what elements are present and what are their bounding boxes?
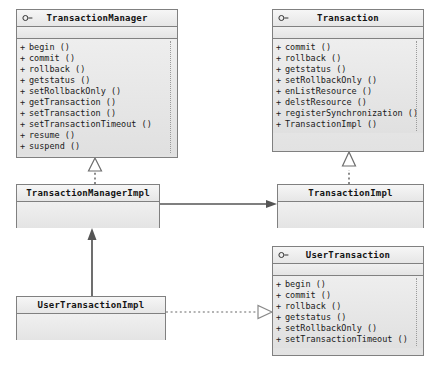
operation-label: delstResource () — [285, 97, 367, 108]
uml-diagram-canvas: TransactionImpl (solid association) --> … — [0, 0, 429, 369]
operation-row[interactable]: + resume () — [20, 130, 175, 141]
visibility-marker: + — [276, 312, 285, 323]
visibility-marker: + — [20, 75, 29, 86]
class-attributes-compartment — [278, 202, 423, 228]
operation-row[interactable]: + commit () — [20, 53, 175, 64]
operation-row[interactable]: + rollback () — [276, 301, 421, 312]
compartment-guide-rail — [416, 278, 418, 346]
visibility-marker: + — [20, 64, 29, 75]
operation-row[interactable]: + TransactionImpl () — [276, 119, 421, 130]
visibility-marker: + — [20, 108, 29, 119]
operation-label: enListResource () — [285, 86, 372, 97]
class-name: UserTransaction — [306, 250, 390, 260]
class-attributes-compartment — [17, 314, 165, 340]
operation-row[interactable]: + setRollbackOnly () — [276, 323, 421, 334]
operation-label: commit () — [29, 53, 75, 64]
class-box-user-transaction-impl[interactable]: UserTransactionImpl — [16, 296, 166, 340]
visibility-marker: + — [20, 119, 29, 130]
class-operations-compartment: + begin () + commit () + rollback () + g… — [17, 39, 177, 155]
relation-tmi-realizes-tm — [89, 158, 102, 184]
relation-uti-realizes-ut — [166, 306, 272, 319]
class-box-transaction[interactable]: Transaction + commit () + rollback () + … — [272, 9, 424, 152]
operation-label: commit () — [285, 42, 331, 53]
operation-label: registerSynchronization () — [285, 108, 418, 119]
operation-row[interactable]: + getstatus () — [276, 64, 421, 75]
operation-row[interactable]: + setRollbackOnly () — [20, 86, 175, 97]
operation-label: rollback () — [285, 53, 341, 64]
visibility-marker: + — [276, 75, 285, 86]
operation-label: TransactionImpl () — [285, 119, 377, 130]
operation-label: setRollbackOnly () — [285, 323, 377, 334]
class-attributes-compartment — [273, 27, 423, 39]
operation-label: setTransactionTimeout () — [29, 119, 152, 130]
operation-label: begin () — [285, 279, 326, 290]
operation-row[interactable]: + commit () — [276, 42, 421, 53]
operation-row[interactable]: + setRollbackOnly () — [276, 75, 421, 86]
visibility-marker: + — [276, 301, 285, 312]
operation-label: setRollbackOnly () — [29, 86, 121, 97]
operation-row[interactable]: + getstatus () — [276, 312, 421, 323]
visibility-marker: + — [20, 141, 29, 152]
class-box-user-transaction[interactable]: UserTransaction + begin () + commit () +… — [272, 246, 424, 356]
operation-label: getstatus () — [29, 75, 90, 86]
relation-uti-assoc-tmi — [88, 228, 97, 296]
visibility-marker: + — [276, 290, 285, 301]
operation-label: begin () — [29, 42, 70, 53]
operation-label: getstatus () — [285, 64, 346, 75]
visibility-marker: + — [276, 53, 285, 64]
operation-label: suspend () — [29, 141, 80, 152]
operation-row[interactable]: + commit () — [276, 290, 421, 301]
class-title-bar: Transaction — [273, 10, 423, 27]
operation-row[interactable]: + suspend () — [20, 141, 175, 152]
class-name: Transaction — [317, 13, 379, 23]
operation-row[interactable]: + rollback () — [20, 64, 175, 75]
visibility-marker: + — [20, 86, 29, 97]
hollow-triangle-arrowhead — [258, 306, 272, 319]
visibility-marker: + — [20, 97, 29, 108]
interface-lollipop-icon — [278, 15, 289, 22]
filled-arrowhead — [88, 228, 97, 240]
visibility-marker: + — [276, 119, 285, 130]
class-attributes-compartment — [17, 27, 177, 39]
visibility-marker: + — [20, 130, 29, 141]
operation-label: setTransactionTimeout () — [285, 334, 408, 345]
visibility-marker: + — [276, 334, 285, 345]
class-operations-compartment: + begin () + commit () + rollback () + g… — [273, 276, 423, 348]
operation-row[interactable]: + enListResource () — [276, 86, 421, 97]
class-name: TransactionManagerImpl — [26, 188, 150, 198]
visibility-marker: + — [276, 279, 285, 290]
operation-row[interactable]: + setTransactionTimeout () — [20, 119, 175, 130]
operation-row[interactable]: + getstatus () — [20, 75, 175, 86]
operation-row[interactable]: + rollback () — [276, 53, 421, 64]
class-box-transaction-manager-impl[interactable]: TransactionManagerImpl — [16, 184, 160, 228]
class-operations-compartment: + commit () + rollback () + getstatus ()… — [273, 39, 423, 133]
relation-tmi-assoc-ti — [160, 200, 277, 208]
class-attributes-compartment — [17, 202, 159, 228]
interface-lollipop-icon — [22, 15, 33, 22]
class-title-bar: TransactionManager — [17, 10, 177, 27]
operation-row[interactable]: + setTransaction () — [20, 108, 175, 119]
visibility-marker: + — [276, 323, 285, 334]
operation-label: resume () — [29, 130, 75, 141]
operation-row[interactable]: + registerSynchronization () — [276, 108, 421, 119]
operation-label: rollback () — [285, 301, 341, 312]
operation-row[interactable]: + begin () — [276, 279, 421, 290]
visibility-marker: + — [276, 108, 285, 119]
operation-label: setRollbackOnly () — [285, 75, 377, 86]
compartment-guide-rail — [170, 41, 172, 153]
visibility-marker: + — [20, 53, 29, 64]
operation-label: commit () — [285, 290, 331, 301]
operation-row[interactable]: + delstResource () — [276, 97, 421, 108]
class-box-transaction-manager[interactable]: TransactionManager + begin () + commit (… — [16, 9, 178, 158]
operation-row[interactable]: + setTransactionTimeout () — [276, 334, 421, 345]
class-box-transaction-impl[interactable]: TransactionImpl — [277, 184, 424, 228]
class-title-bar: UserTransactionImpl — [17, 297, 165, 314]
class-name: UserTransactionImpl — [38, 300, 145, 310]
hollow-triangle-arrowhead — [343, 152, 356, 166]
operation-row[interactable]: + begin () — [20, 42, 175, 53]
operation-label: rollback () — [29, 64, 85, 75]
class-title-bar: UserTransaction — [273, 247, 423, 264]
visibility-marker: + — [276, 86, 285, 97]
filled-arrowhead — [266, 200, 277, 208]
operation-row[interactable]: + getTransaction () — [20, 97, 175, 108]
